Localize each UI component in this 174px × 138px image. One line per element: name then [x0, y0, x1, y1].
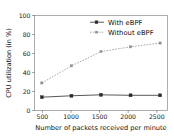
x-tick-label: 1500 — [92, 113, 108, 120]
cpu-utilization-line-chart: 0 20 40 60 80 100 500 1000 1500 2000 250… — [0, 0, 174, 138]
data-point — [159, 42, 161, 44]
legend-label-with-ebpf: With eBPF — [108, 19, 143, 27]
data-point — [129, 94, 132, 97]
data-point — [70, 94, 73, 97]
y-tick-label: 40 — [23, 69, 31, 76]
x-tick-label: 1000 — [63, 113, 79, 120]
y-tick-label: 100 — [19, 12, 31, 19]
x-axis-title: Number of packets received per minute — [35, 124, 166, 132]
y-axis-title: CPU utilization (in %) — [5, 28, 13, 98]
x-tick-label: 2000 — [120, 113, 136, 120]
data-point — [70, 65, 72, 67]
data-point — [40, 96, 43, 99]
x-tick-label: 2500 — [149, 113, 165, 120]
data-point — [41, 82, 43, 84]
data-point — [100, 51, 102, 53]
y-tick-label: 60 — [23, 50, 31, 57]
data-point — [159, 94, 162, 97]
legend-marker-without-ebpf — [95, 31, 97, 33]
y-tick-label: 20 — [23, 88, 31, 95]
chart-canvas: 0 20 40 60 80 100 500 1000 1500 2000 250… — [0, 0, 174, 138]
data-point — [129, 46, 131, 48]
legend-marker-with-ebpf — [95, 21, 98, 24]
y-tick-label: 0 — [27, 107, 31, 114]
data-point — [100, 93, 103, 96]
y-tick-label: 80 — [23, 31, 31, 38]
x-tick-label: 500 — [36, 113, 48, 120]
legend-label-without-ebpf: Without eBPF — [108, 29, 154, 37]
